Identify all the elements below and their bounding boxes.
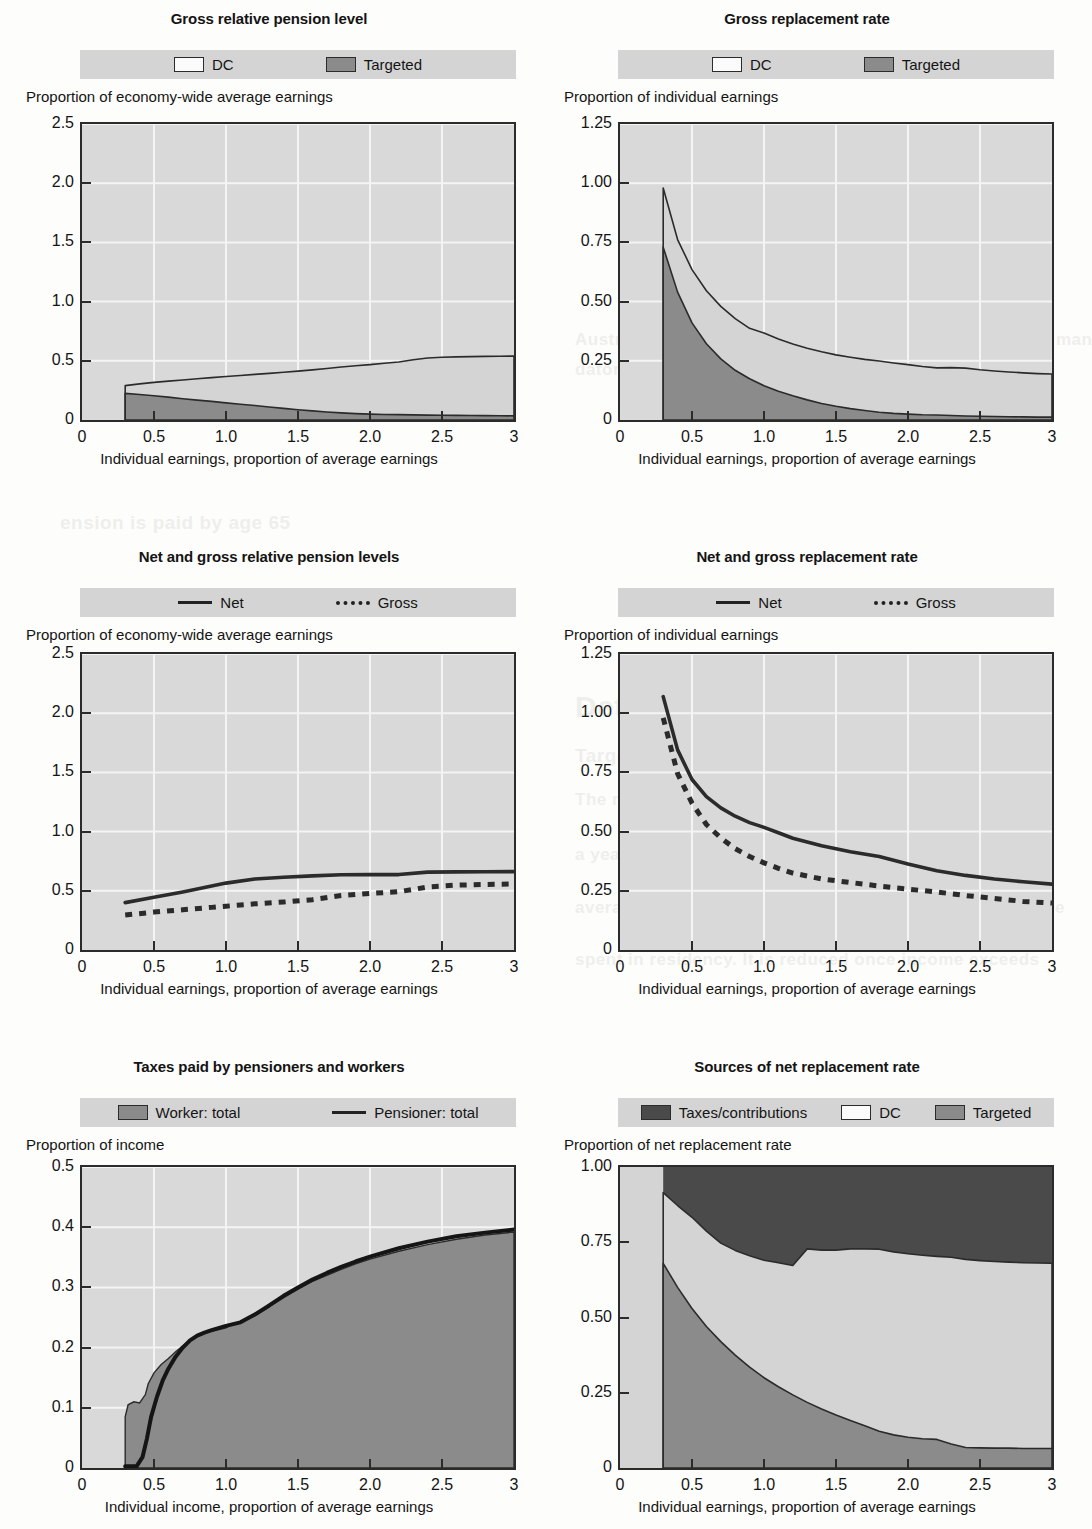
y-tick-label: 2.0 (18, 703, 74, 721)
y-tick-label: 1.0 (18, 292, 74, 310)
legend-item[interactable]: Targeted (935, 1104, 1031, 1121)
legend-item[interactable]: Targeted (864, 56, 960, 73)
y-tick-label: 1.00 (556, 173, 612, 191)
legend-item[interactable]: DC (841, 1104, 901, 1121)
x-tick-mark (979, 411, 981, 420)
x-tick-label: 2.5 (950, 1476, 1010, 1494)
x-tick-label: 1.0 (196, 958, 256, 976)
y-tick-mark (620, 1241, 629, 1243)
solid-line-icon (178, 601, 212, 604)
plot-area (80, 122, 516, 422)
legend-item[interactable]: Gross (874, 594, 956, 611)
legend-label: Worker: total (156, 1104, 241, 1121)
legend-label: Net (758, 594, 781, 611)
x-tick-label: 2.5 (412, 1476, 472, 1494)
solid-line-icon (332, 1111, 366, 1114)
x-tick-mark (691, 411, 693, 420)
legend-item[interactable]: Pensioner: total (332, 1104, 478, 1121)
y-tick-label: 1.25 (556, 114, 612, 132)
y-tick-mark (620, 241, 629, 243)
y-tick-mark (82, 301, 91, 303)
y-tick-label: 0.4 (18, 1217, 74, 1235)
x-tick-label: 3 (484, 958, 544, 976)
x-tick-label: 2.0 (340, 428, 400, 446)
chart-legend: Worker: totalPensioner: total (80, 1098, 516, 1127)
x-tick-mark (297, 1459, 299, 1468)
y-tick-mark (620, 890, 629, 892)
x-tick-label: 0.5 (124, 1476, 184, 1494)
legend-item[interactable]: Taxes/contributions (641, 1104, 807, 1121)
x-tick-label: 1.5 (268, 1476, 328, 1494)
y-tick-label: 0.25 (556, 351, 612, 369)
x-tick-mark (369, 941, 371, 950)
x-tick-label: 2.0 (878, 958, 938, 976)
x-tick-label: 0.5 (662, 958, 722, 976)
chart-legend: DCTargeted (80, 50, 516, 79)
legend-item[interactable]: Worker: total (118, 1104, 241, 1121)
x-tick-mark (835, 1459, 837, 1468)
plot-area (80, 652, 516, 952)
y-tick-label: 2.0 (18, 173, 74, 191)
y-tick-label: 0.75 (556, 1232, 612, 1250)
y-tick-label: 0.50 (556, 822, 612, 840)
y-axis-label: Proportion of income (26, 1136, 164, 1153)
x-tick-mark (979, 941, 981, 950)
x-tick-mark (153, 1459, 155, 1468)
x-axis-label: Individual income, proportion of average… (0, 1498, 538, 1515)
x-tick-label: 1.0 (734, 1476, 794, 1494)
x-tick-label: 3 (1022, 428, 1082, 446)
y-tick-label: 0.25 (556, 1383, 612, 1401)
x-tick-label: 2.0 (878, 428, 938, 446)
y-tick-label: 1.00 (556, 703, 612, 721)
x-tick-mark (441, 941, 443, 950)
x-tick-mark (297, 411, 299, 420)
y-tick-label: 2.5 (18, 644, 74, 662)
chart-legend: DCTargeted (618, 50, 1054, 79)
chart-title: Gross relative pension level (0, 10, 538, 28)
y-tick-label: 0 (556, 940, 612, 958)
plot-area (618, 122, 1054, 422)
plot-area (80, 1165, 516, 1470)
legend-item[interactable]: Net (178, 594, 243, 611)
targeted-swatch-icon (864, 57, 894, 72)
x-tick-mark (907, 941, 909, 950)
x-tick-mark (225, 411, 227, 420)
worker-swatch-icon (118, 1105, 148, 1120)
y-tick-mark (82, 1226, 91, 1228)
y-tick-label: 1.5 (18, 232, 74, 250)
y-tick-mark (82, 890, 91, 892)
x-tick-mark (691, 1459, 693, 1468)
x-tick-label: 0 (52, 1476, 112, 1494)
legend-label: DC (879, 1104, 901, 1121)
y-tick-mark (82, 1407, 91, 1409)
x-tick-mark (153, 411, 155, 420)
x-tick-mark (979, 1459, 981, 1468)
x-tick-label: 1.5 (268, 428, 328, 446)
x-tick-label: 1.5 (806, 1476, 866, 1494)
y-tick-label: 1.00 (556, 1157, 612, 1175)
dc-swatch-icon (712, 57, 742, 72)
dc-swatch-icon (841, 1105, 871, 1120)
y-tick-mark (620, 712, 629, 714)
x-tick-label: 0.5 (662, 1476, 722, 1494)
legend-item[interactable]: Gross (336, 594, 418, 611)
y-tick-mark (82, 241, 91, 243)
y-tick-label: 0.5 (18, 1157, 74, 1175)
x-tick-mark (907, 1459, 909, 1468)
y-tick-label: 0 (556, 410, 612, 428)
legend-label: Targeted (902, 56, 960, 73)
plot-svg (620, 654, 1052, 950)
legend-item[interactable]: Net (716, 594, 781, 611)
y-tick-label: 1.25 (556, 644, 612, 662)
y-axis-label: Proportion of net replacement rate (564, 1136, 792, 1153)
x-tick-label: 0.5 (124, 958, 184, 976)
x-tick-label: 3 (484, 1476, 544, 1494)
legend-item[interactable]: Targeted (326, 56, 422, 73)
y-tick-label: 0.75 (556, 762, 612, 780)
x-tick-label: 2.0 (878, 1476, 938, 1494)
legend-item[interactable]: DC (712, 56, 772, 73)
y-tick-label: 1.5 (18, 762, 74, 780)
chart-legend: NetGross (618, 588, 1054, 617)
y-tick-label: 0 (18, 410, 74, 428)
legend-item[interactable]: DC (174, 56, 234, 73)
